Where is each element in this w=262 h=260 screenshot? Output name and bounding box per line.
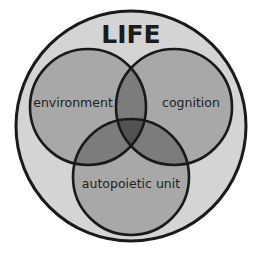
environment-label: environment (33, 95, 113, 110)
cognition-label: cognition (162, 95, 220, 110)
life-title: LIFE (101, 20, 160, 49)
venn-diagram: LIFE environment cognition autopoietic u… (0, 0, 262, 260)
autopoietic-unit-label: autopoietic unit (82, 176, 180, 191)
